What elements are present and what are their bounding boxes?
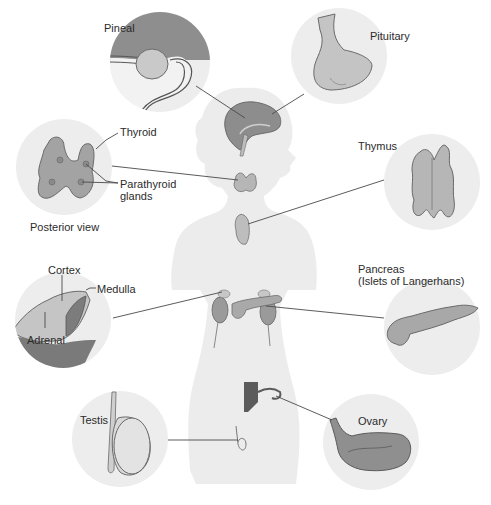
- label-thyroid: Thyroid: [120, 126, 157, 138]
- label-pituitary: Pituitary: [370, 30, 410, 42]
- label-cortex: Cortex: [48, 264, 80, 276]
- label-islets-of-langerhans: (Islets of Langerhans): [358, 275, 464, 287]
- endocrine-diagram: [0, 0, 491, 505]
- label-pineal: Pineal: [104, 22, 135, 34]
- label-pancreas: Pancreas: [358, 263, 404, 275]
- pancreas-leader: [266, 306, 384, 318]
- label-parathyroid-line1: Parathyroid: [120, 178, 176, 190]
- label-thymus: Thymus: [358, 140, 397, 152]
- label-adrenal: Adrenal: [27, 334, 65, 346]
- label-ovary: Ovary: [358, 415, 387, 427]
- label-parathyroid-line2: glands: [120, 190, 152, 202]
- adrenal-leader: [113, 292, 222, 318]
- label-testis: Testis: [80, 414, 108, 426]
- label-posterior-view: Posterior view: [30, 221, 99, 233]
- label-medulla: Medulla: [97, 283, 136, 295]
